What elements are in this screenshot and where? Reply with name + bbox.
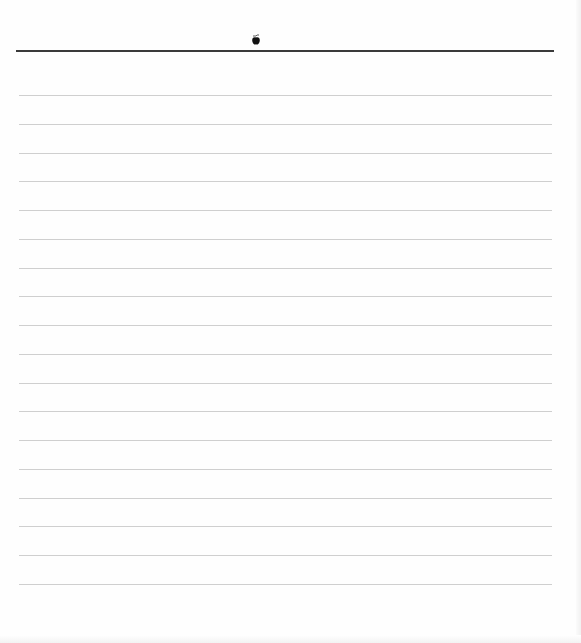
ruled-line <box>19 354 552 355</box>
ruled-line <box>19 555 552 556</box>
ruled-line <box>19 239 552 240</box>
page-edge-shadow <box>576 0 581 643</box>
ruled-line <box>19 296 552 297</box>
apple-logo-icon <box>250 34 262 46</box>
ruled-line <box>19 469 552 470</box>
ruled-line <box>19 526 552 527</box>
ruled-line <box>19 498 552 499</box>
ruled-line <box>19 383 552 384</box>
ruled-line <box>19 181 552 182</box>
page-bottom-shadow <box>0 635 581 643</box>
ruled-line <box>19 124 552 125</box>
ruled-line <box>19 325 552 326</box>
ruled-line <box>19 584 552 585</box>
header-rule <box>16 50 554 52</box>
ruled-line <box>19 210 552 211</box>
ruled-line <box>19 411 552 412</box>
notebook-page <box>0 0 581 643</box>
ruled-line <box>19 153 552 154</box>
ruled-line <box>19 95 552 96</box>
ruled-line <box>19 268 552 269</box>
ruled-line <box>19 440 552 441</box>
